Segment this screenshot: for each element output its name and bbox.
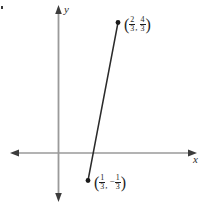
fraction-numerator: 4 xyxy=(140,16,146,24)
fraction-numerator: 1 xyxy=(115,174,121,182)
fraction-y-upper: 43 xyxy=(140,16,146,34)
x-axis-arrow-left xyxy=(10,150,19,157)
fraction-denominator: 3 xyxy=(140,24,146,33)
y-axis-label: y xyxy=(64,4,69,15)
paren-close: ) xyxy=(121,174,126,191)
coordinate-plane-figure: y x (23,43) (13,−13) xyxy=(0,0,206,209)
y-axis-arrow-bottom xyxy=(55,193,62,202)
fraction-y-lower: 13 xyxy=(115,174,121,192)
fraction-denominator: 3 xyxy=(115,182,121,191)
point-label-lower: (13,−13) xyxy=(94,174,126,192)
x-axis-label: x xyxy=(193,154,198,165)
line-segment xyxy=(88,23,118,181)
point-label-upper: (23,43) xyxy=(124,16,151,34)
point-marker-upper xyxy=(116,20,121,25)
point-marker-lower xyxy=(86,178,91,183)
paren-close: ) xyxy=(146,16,151,33)
y-axis-arrow-top xyxy=(55,5,62,14)
